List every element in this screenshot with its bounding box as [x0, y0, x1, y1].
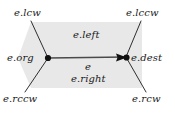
edge-line-e: [48, 57, 126, 58]
label-lccw: e.lccw: [126, 8, 159, 18]
vertex-dot-org: [45, 55, 51, 61]
label-rcw: e.rcw: [132, 94, 161, 104]
winged-edge-figure: e.lcw e.lccw e.org e.dest e.rccw e.rcw e…: [0, 0, 175, 113]
label-edge-e: e: [85, 62, 91, 72]
label-rccw: e.rccw: [3, 94, 37, 104]
label-right-face: e.right: [71, 74, 106, 84]
label-left-face: e.left: [73, 30, 100, 40]
label-dest: e.dest: [131, 53, 162, 63]
left-face-fill: [31, 22, 142, 58]
vertex-dot-dest: [123, 54, 129, 60]
label-lcw: e.lcw: [14, 8, 41, 18]
label-org: e.org: [7, 53, 34, 63]
